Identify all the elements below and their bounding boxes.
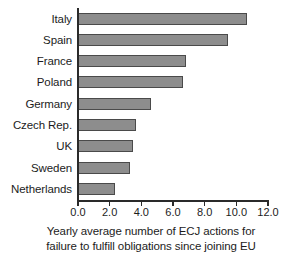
x-tick-label: 12.0 bbox=[248, 206, 288, 219]
category-label: France bbox=[0, 55, 72, 67]
bar bbox=[78, 98, 151, 110]
category-label: Netherlands bbox=[0, 183, 72, 195]
category-label: Italy bbox=[0, 13, 72, 25]
bar-row: Sweden bbox=[0, 157, 302, 178]
bar-row: UK bbox=[0, 136, 302, 157]
bar-row: Italy bbox=[0, 8, 302, 29]
bar-row: Poland bbox=[0, 72, 302, 93]
bar bbox=[78, 140, 133, 152]
x-axis-title: Yearly average number of ECJ actions for… bbox=[0, 224, 302, 254]
category-label: Czech Rep. bbox=[0, 119, 72, 131]
category-label: Poland bbox=[0, 76, 72, 88]
category-label: Germany bbox=[0, 98, 72, 110]
bar bbox=[78, 183, 115, 195]
bar bbox=[78, 162, 130, 174]
bar bbox=[78, 13, 247, 25]
bar-chart-figure: ItalySpainFrancePolandGermanyCzech Rep.U… bbox=[0, 0, 302, 263]
bar-row: Czech Rep. bbox=[0, 115, 302, 136]
bar bbox=[78, 34, 228, 46]
bar bbox=[78, 55, 186, 67]
bar bbox=[78, 76, 183, 88]
x-axis-title-line-1: Yearly average number of ECJ actions for bbox=[0, 224, 302, 239]
bar-row: Netherlands bbox=[0, 178, 302, 199]
bar-row: France bbox=[0, 51, 302, 72]
category-label: Sweden bbox=[0, 162, 72, 174]
bar bbox=[78, 119, 136, 131]
x-axis-title-line-2: failure to fulfill obligations since joi… bbox=[0, 239, 302, 254]
plot-area: ItalySpainFrancePolandGermanyCzech Rep.U… bbox=[0, 0, 302, 205]
bar-row: Spain bbox=[0, 29, 302, 50]
category-label: Spain bbox=[0, 34, 72, 46]
y-axis-line bbox=[77, 8, 79, 201]
bar-row: Germany bbox=[0, 93, 302, 114]
category-label: UK bbox=[0, 140, 72, 152]
